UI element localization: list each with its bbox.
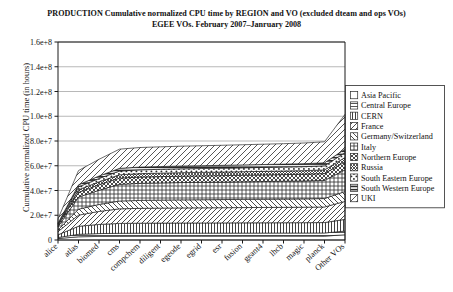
legend-swatch-germany-switzerland: [351, 133, 358, 140]
y-axis-ticks: 02.0e+74.0e+76.0e+78.0e+71.0e+81.2e+81.4…: [30, 38, 58, 245]
chart-title: PRODUCTION Cumulative normalized CPU tim…: [0, 8, 453, 19]
x-tick-label: fusion: [222, 241, 244, 262]
chart-page: PRODUCTION Cumulative normalized CPU tim…: [0, 0, 453, 292]
legend-label: South Western Europe: [361, 184, 435, 193]
chart-legend: Asia PacificCentral EuropeCERNFranceGerm…: [346, 86, 445, 208]
y-tick-label: 1.0e+8: [30, 112, 52, 121]
y-tick-label: 8.0e+7: [30, 137, 52, 146]
area-series-group: [58, 114, 345, 240]
x-tick-label: egeode: [159, 242, 183, 265]
legend-swatch-france: [351, 122, 358, 129]
legend-swatch-south-eastern-europe: [351, 174, 358, 181]
legend-label: Italy: [361, 143, 377, 152]
legend-label: Northern Europe: [361, 153, 417, 162]
stacked-area-chart: 02.0e+74.0e+76.0e+78.0e+71.0e+81.2e+81.4…: [0, 0, 453, 292]
y-tick-label: 1.4e+8: [30, 63, 52, 72]
x-axis-ticks: aliceatlasbiomedcmscompchemdiligentegeod…: [42, 240, 347, 273]
x-tick-label: biomed: [76, 241, 101, 265]
y-tick-label: 6.0e+7: [30, 162, 52, 171]
legend-label: South Eastern Europe: [361, 174, 433, 183]
legend-swatch-russia: [351, 164, 358, 171]
y-axis-label: Cumulative normalized CPU time (in hours…: [22, 38, 31, 238]
x-tick-label: geant4: [242, 241, 265, 263]
x-tick-label: diligent: [137, 241, 163, 265]
legend-label: Asia Pacific: [361, 91, 401, 100]
legend-swatch-italy: [351, 143, 358, 150]
chart-subtitle: EGEE VOs. February 2007–Janruary 2008: [0, 19, 453, 30]
x-tick-label: cms: [105, 242, 121, 258]
legend-label: UKI: [361, 194, 376, 203]
legend-swatch-cern: [351, 112, 358, 119]
x-tick-label: magic: [284, 242, 305, 263]
chart-title-block: PRODUCTION Cumulative normalized CPU tim…: [0, 8, 453, 30]
legend-swatch-south-western-europe: [351, 184, 358, 191]
legend-label: Russia: [361, 163, 383, 172]
legend-swatch-northern-europe: [351, 153, 358, 160]
y-tick-label: 1.6e+8: [30, 38, 52, 47]
y-tick-label: 2.0e+7: [30, 211, 52, 220]
legend-swatch-uki: [351, 195, 358, 202]
legend-label: Germany/Switzerland: [361, 132, 433, 141]
x-tick-label: lhcb: [268, 242, 285, 258]
y-tick-label: 4.0e+7: [30, 187, 52, 196]
legend-swatch-asia-pacific: [351, 92, 358, 99]
legend-label: France: [361, 122, 384, 131]
x-tick-label: alice: [42, 242, 60, 259]
y-tick-label: 1.2e+8: [30, 88, 52, 97]
legend-swatch-central-europe: [351, 102, 358, 109]
legend-label: CERN: [361, 112, 383, 121]
x-tick-label: egrid: [184, 241, 203, 260]
x-tick-label: esr: [210, 242, 223, 255]
legend-label: Central Europe: [361, 101, 411, 110]
